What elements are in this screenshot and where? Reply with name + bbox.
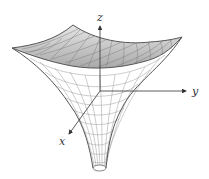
x-axis-label: x: [59, 135, 66, 148]
z-axis-label: z: [96, 11, 103, 24]
surface-plot: z y x: [0, 0, 209, 179]
surface-plot-svg: z y x: [0, 0, 209, 179]
y-axis-label: y: [191, 85, 199, 98]
